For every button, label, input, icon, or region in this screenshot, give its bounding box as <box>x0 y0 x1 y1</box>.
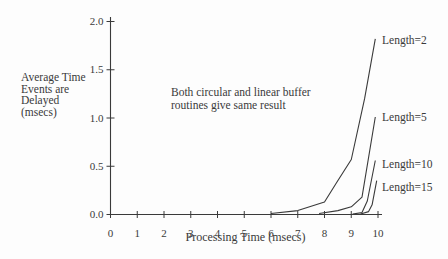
buffer-delay-chart: 0123456789100.00.51.01.52.0 Average Time… <box>0 0 448 259</box>
svg-text:0.0: 0.0 <box>90 208 104 220</box>
series-label-length-2: Length=2 <box>382 34 427 47</box>
series-label-length-10: Length=10 <box>382 158 433 171</box>
svg-text:0.5: 0.5 <box>90 160 104 172</box>
series-label-length-5: Length=5 <box>382 111 427 124</box>
plot-canvas: 0123456789100.00.51.01.52.0 <box>0 0 448 259</box>
x-axis-label: Processing Time (msecs) <box>110 230 381 245</box>
series-label-length-15: Length=15 <box>382 181 433 194</box>
annotation-text: Both circular and linear buffer routines… <box>171 86 331 111</box>
y-axis-label: Average Time Events are Delayed (msecs) <box>21 72 113 119</box>
svg-text:2.0: 2.0 <box>90 15 104 27</box>
